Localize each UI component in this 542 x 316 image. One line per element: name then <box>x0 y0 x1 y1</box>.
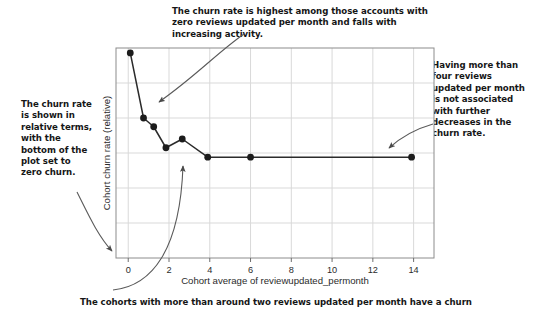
scatter-line-chart: 02468101214 Cohort average of reviewupda… <box>0 0 542 316</box>
x-axis-tick-labels: 02468101214 <box>126 265 419 275</box>
svg-text:14: 14 <box>408 265 418 275</box>
svg-text:12: 12 <box>368 265 378 275</box>
svg-text:4: 4 <box>207 265 212 275</box>
x-axis-ticks <box>128 258 413 262</box>
y-axis-title: Cohort churn rate (relative) <box>101 96 112 211</box>
svg-text:2: 2 <box>166 265 171 275</box>
svg-text:0: 0 <box>126 265 131 275</box>
svg-text:6: 6 <box>248 265 253 275</box>
svg-text:8: 8 <box>289 265 294 275</box>
svg-text:10: 10 <box>327 265 337 275</box>
figure-with-annotations: The churn rate is highest among those ac… <box>0 0 542 316</box>
x-axis-title: Cohort average of reviewupdated_permonth <box>181 275 369 286</box>
